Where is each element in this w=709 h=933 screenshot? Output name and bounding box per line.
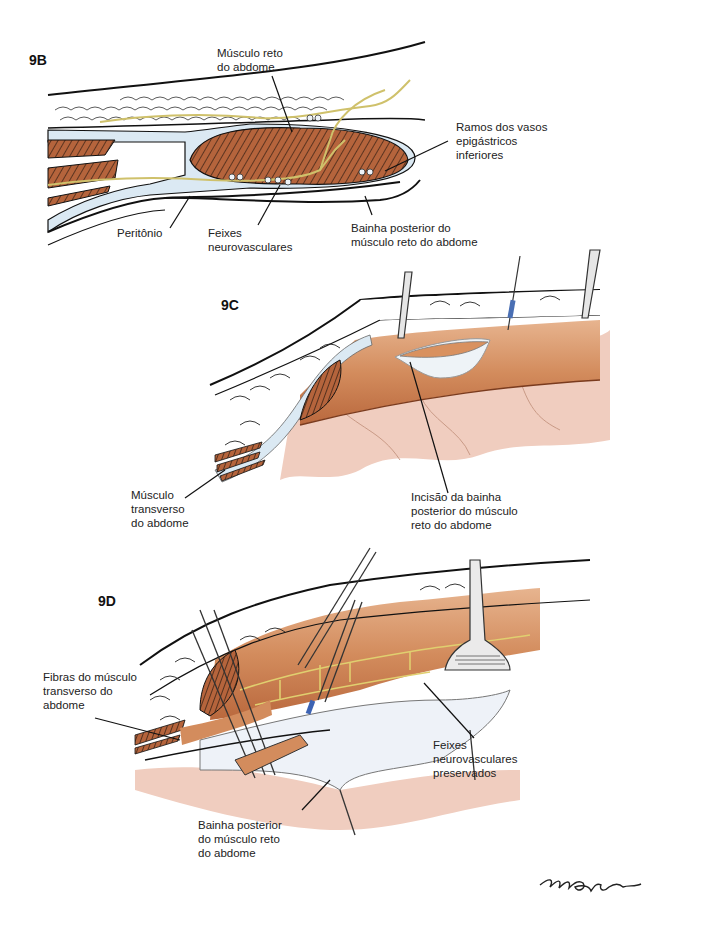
label-feixes-neurovasculares: Feixes neurovasculares: [208, 226, 292, 254]
label-peritonio: Peritônio: [117, 226, 162, 240]
anatomy-drawings: [0, 0, 709, 933]
label-fibras-do-musculo-transverso: Fibras do músculo transverso do abdome: [43, 670, 137, 712]
illustration-canvas: 9B Músculo reto do abdome Ramos dos vaso…: [0, 0, 709, 933]
panel-label-9b: 9B: [29, 52, 47, 68]
panel-label-9d: 9D: [98, 593, 116, 609]
label-feixes-neurovasculares-preservados: Feixes neurovasculares preservados: [433, 738, 517, 780]
label-incisao-da-bainha: Incisão da bainha posterior do músculo r…: [411, 490, 518, 532]
panel-9c-drawing: [185, 250, 610, 498]
panel-9d-drawing: [95, 548, 590, 835]
signature-drawing: [540, 880, 641, 891]
label-bainha-posterior-9b: Bainha posterior do músculo reto do abdo…: [351, 221, 478, 249]
label-ramos-dos-vasos-epigastricos: Ramos dos vasos epigástricos inferiores: [456, 120, 547, 162]
label-bainha-posterior-9d: Bainha posterior do músculo reto do abdo…: [198, 818, 282, 860]
label-musculo-reto-do-abdome: Músculo reto do abdome: [217, 46, 283, 74]
label-musculo-transverso-do-abdome: Músculo transverso do abdome: [131, 488, 189, 530]
panel-label-9c: 9C: [221, 297, 239, 313]
